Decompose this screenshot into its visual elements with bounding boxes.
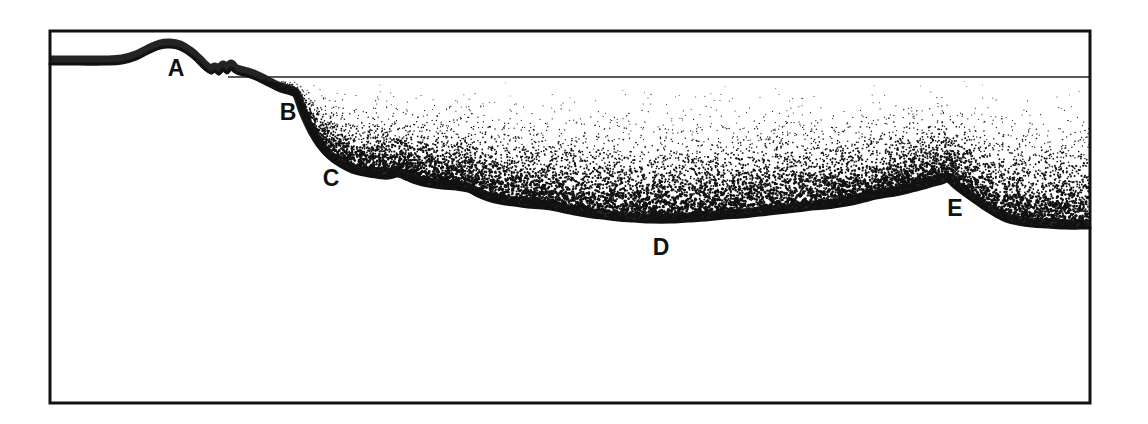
diagram-label-a: A bbox=[168, 55, 185, 81]
diagram-label-d: D bbox=[653, 234, 670, 260]
continental-margin-figure: ABCDE bbox=[0, 0, 1148, 424]
diagram-label-b: B bbox=[280, 99, 297, 125]
diagram-label-c: C bbox=[323, 165, 340, 191]
diagram-label-e: E bbox=[947, 195, 962, 221]
profile-diagram-svg: ABCDE bbox=[0, 0, 1148, 424]
